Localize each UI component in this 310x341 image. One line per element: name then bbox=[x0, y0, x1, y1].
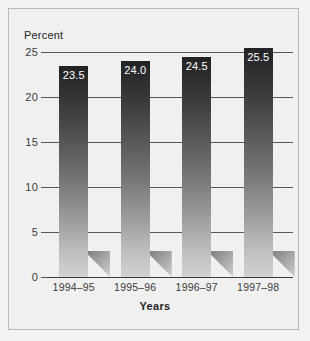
bar-group[interactable]: 24.0 bbox=[121, 61, 150, 277]
y-tick-15 bbox=[41, 142, 47, 143]
y-tick-label: 25 bbox=[25, 46, 38, 58]
y-tick-label: 5 bbox=[32, 226, 38, 238]
bar-group[interactable]: 23.5 bbox=[59, 66, 88, 278]
x-tick-label: 1994–95 bbox=[43, 281, 105, 293]
bar-group[interactable]: 24.5 bbox=[182, 57, 211, 278]
bar[interactable]: 24.5 bbox=[182, 57, 211, 278]
bar[interactable]: 23.5 bbox=[59, 66, 88, 278]
y-tick-20 bbox=[41, 97, 47, 98]
bar[interactable]: 24.0 bbox=[121, 61, 150, 277]
x-axis-title: Years bbox=[0, 300, 310, 312]
y-axis-title: Percent bbox=[24, 29, 63, 41]
y-tick-0 bbox=[41, 277, 47, 278]
y-tick-label: 15 bbox=[25, 136, 38, 148]
bar-value-label: 24.0 bbox=[121, 64, 150, 76]
bar-group[interactable]: 25.5 bbox=[244, 48, 273, 278]
x-tick-label: 1996–97 bbox=[166, 281, 228, 293]
bar[interactable]: 25.5 bbox=[244, 48, 273, 278]
y-tick-label: 0 bbox=[32, 271, 38, 283]
gridline-0 bbox=[47, 277, 293, 278]
y-tick-label: 20 bbox=[25, 91, 38, 103]
plot-area: 051015202523.524.024.525.5 bbox=[47, 52, 293, 277]
bar-value-label: 24.5 bbox=[182, 60, 211, 72]
x-tick-label: 1995–96 bbox=[105, 281, 167, 293]
y-tick-label: 10 bbox=[25, 181, 38, 193]
chart-figure: Percent 051015202523.524.024.525.5 Years… bbox=[0, 0, 310, 341]
y-tick-5 bbox=[41, 232, 47, 233]
y-tick-25 bbox=[41, 52, 47, 53]
bar-value-label: 23.5 bbox=[59, 69, 88, 81]
y-tick-10 bbox=[41, 187, 47, 188]
x-tick-label: 1997–98 bbox=[228, 281, 290, 293]
bar-value-label: 25.5 bbox=[244, 51, 273, 63]
